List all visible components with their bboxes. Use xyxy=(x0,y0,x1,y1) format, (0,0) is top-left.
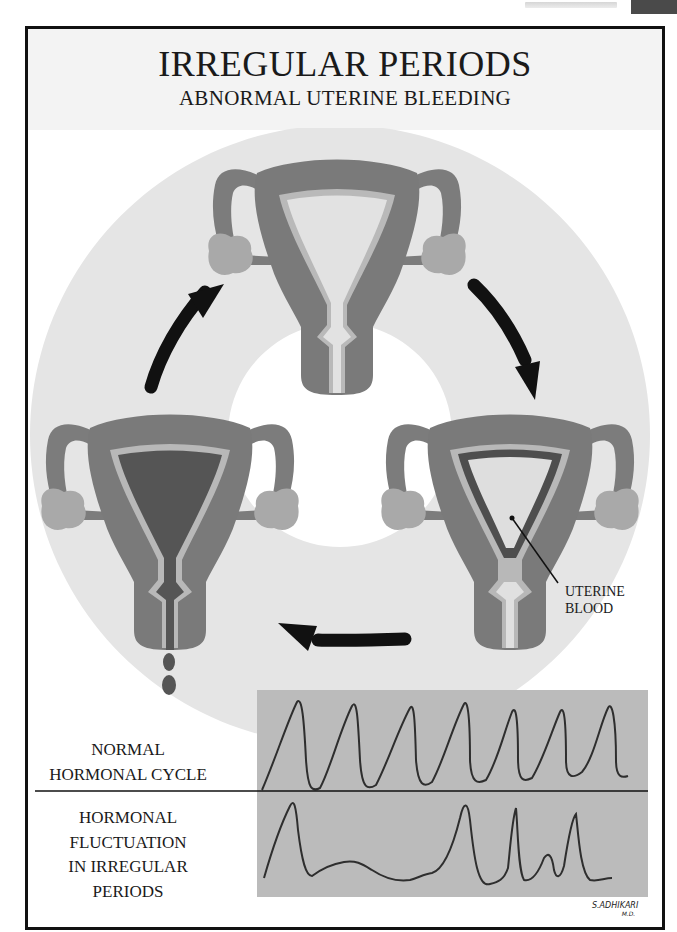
irregular-label-line-1: HORMONAL xyxy=(28,806,228,831)
signature-name: S.ADHIKARI xyxy=(592,901,638,910)
irregular-label-line-3: IN IRREGULAR xyxy=(28,855,228,880)
illustration xyxy=(0,0,677,932)
normal-label-line-1: NORMAL xyxy=(28,738,228,763)
irregular-label-line-2: FLUCTUATION xyxy=(28,831,228,856)
uterine-blood-label: UTERINE BLOOD xyxy=(565,584,625,618)
blood-drop xyxy=(162,675,176,695)
artist-signature: S.ADHIKARI M.D. xyxy=(592,902,638,917)
irregular-cycle-label: HORMONAL FLUCTUATION IN IRREGULAR PERIOD… xyxy=(28,806,228,905)
signature-credential: M.D. xyxy=(592,911,638,918)
chart-panel xyxy=(257,690,648,897)
callout-line-1: UTERINE xyxy=(565,584,625,601)
normal-cycle-label: NORMAL HORMONAL CYCLE xyxy=(28,738,228,787)
normal-label-line-2: HORMONAL CYCLE xyxy=(28,763,228,788)
blood-drop xyxy=(163,653,175,671)
callout-line-2: BLOOD xyxy=(565,601,625,618)
irregular-label-line-4: PERIODS xyxy=(28,880,228,905)
